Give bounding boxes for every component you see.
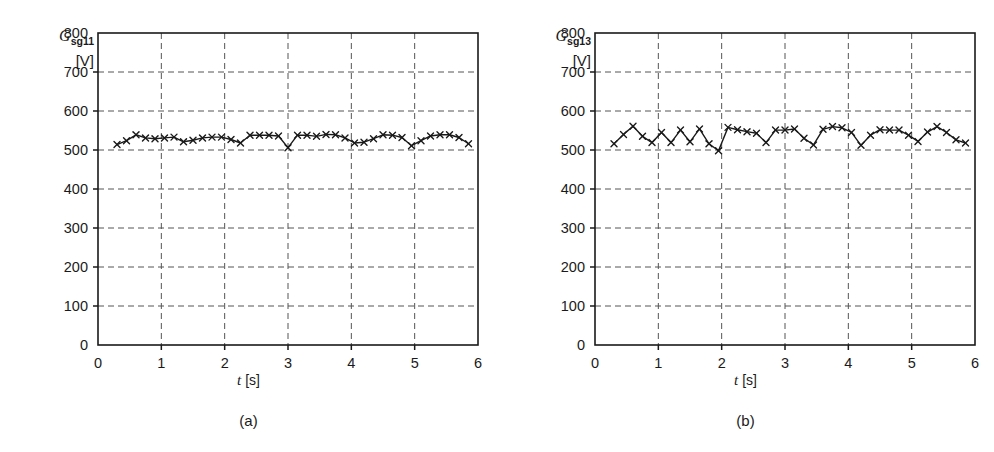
svg-text:0: 0 — [591, 355, 599, 371]
svg-text:1: 1 — [654, 355, 662, 371]
svg-text:0: 0 — [80, 337, 88, 353]
svg-text:500: 500 — [64, 142, 88, 158]
svg-text:500: 500 — [561, 142, 585, 158]
svg-text:400: 400 — [64, 181, 88, 197]
svg-text:3: 3 — [781, 355, 789, 371]
caption-a: (a) — [0, 412, 497, 429]
svg-text:800: 800 — [64, 25, 88, 41]
svg-text:100: 100 — [561, 298, 585, 314]
x-axis-unit: [s] — [742, 372, 757, 388]
chart-panel-b: Gsg13 [V] 010020030040050060070080001234… — [497, 0, 994, 452]
svg-text:0: 0 — [577, 337, 585, 353]
x-axis-symbol: t — [734, 372, 738, 388]
svg-text:0: 0 — [94, 355, 102, 371]
svg-text:5: 5 — [908, 355, 916, 371]
caption-b: (b) — [497, 412, 994, 429]
svg-text:2: 2 — [221, 355, 229, 371]
x-axis-unit: [s] — [245, 372, 260, 388]
svg-text:200: 200 — [64, 259, 88, 275]
svg-text:6: 6 — [474, 355, 482, 371]
x-axis-symbol: t — [237, 372, 241, 388]
svg-text:600: 600 — [64, 103, 88, 119]
svg-text:100: 100 — [64, 298, 88, 314]
x-axis-label-a: t [s] — [0, 372, 497, 389]
svg-text:300: 300 — [561, 220, 585, 236]
svg-text:800: 800 — [561, 25, 585, 41]
svg-text:6: 6 — [971, 355, 979, 371]
svg-text:4: 4 — [347, 355, 355, 371]
figure-container: Gsg11 [V] 010020030040050060070080001234… — [0, 0, 994, 452]
x-axis-label-b: t [s] — [497, 372, 994, 389]
svg-text:600: 600 — [561, 103, 585, 119]
svg-text:200: 200 — [561, 259, 585, 275]
svg-text:1: 1 — [157, 355, 165, 371]
svg-text:300: 300 — [64, 220, 88, 236]
svg-text:700: 700 — [64, 64, 88, 80]
svg-text:3: 3 — [284, 355, 292, 371]
svg-text:400: 400 — [561, 181, 585, 197]
svg-text:700: 700 — [561, 64, 585, 80]
svg-text:4: 4 — [844, 355, 852, 371]
svg-text:5: 5 — [411, 355, 419, 371]
svg-text:2: 2 — [718, 355, 726, 371]
chart-panel-a: Gsg11 [V] 010020030040050060070080001234… — [0, 0, 497, 452]
